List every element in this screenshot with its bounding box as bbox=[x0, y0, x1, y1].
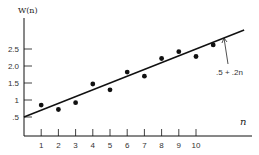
data-point bbox=[108, 87, 113, 92]
data-point bbox=[142, 74, 147, 79]
x-tick-label: 10 bbox=[192, 141, 201, 150]
ticks: 12345678910.511.52.02.5 bbox=[8, 45, 201, 150]
x-axis-title: n bbox=[240, 116, 246, 127]
data-point bbox=[90, 82, 95, 87]
y-tick-label: 1 bbox=[15, 96, 20, 105]
data-point bbox=[56, 107, 61, 112]
axes bbox=[24, 18, 252, 136]
x-tick-label: 5 bbox=[108, 141, 113, 150]
data-points bbox=[39, 43, 216, 112]
x-tick-label: 7 bbox=[142, 141, 147, 150]
x-tick-label: 6 bbox=[125, 141, 130, 150]
x-tick-label: 1 bbox=[39, 141, 44, 150]
data-point bbox=[194, 54, 199, 59]
annotation-arrow bbox=[224, 38, 228, 64]
y-tick-label: 2.5 bbox=[8, 45, 20, 54]
fitted-line bbox=[24, 30, 244, 117]
x-tick-label: 9 bbox=[177, 141, 182, 150]
scatter-chart: 12345678910.511.52.02.5 W(n) n .5 + .2n bbox=[0, 0, 259, 155]
y-tick-label: 1.5 bbox=[8, 79, 20, 88]
line-equation-label: .5 + .2n bbox=[216, 68, 243, 77]
x-tick-label: 2 bbox=[56, 141, 61, 150]
data-point bbox=[159, 56, 164, 61]
y-tick-label: 2.0 bbox=[8, 62, 20, 71]
y-axis-title: W(n) bbox=[18, 6, 38, 15]
y-tick-label: .5 bbox=[12, 113, 19, 122]
data-point bbox=[125, 70, 130, 75]
regression-line bbox=[24, 30, 244, 117]
data-point bbox=[176, 49, 181, 54]
x-tick-label: 3 bbox=[73, 141, 78, 150]
data-point bbox=[73, 100, 78, 105]
x-tick-label: 4 bbox=[91, 141, 96, 150]
x-tick-label: 8 bbox=[159, 141, 164, 150]
data-point bbox=[211, 43, 216, 48]
data-point bbox=[39, 103, 44, 108]
